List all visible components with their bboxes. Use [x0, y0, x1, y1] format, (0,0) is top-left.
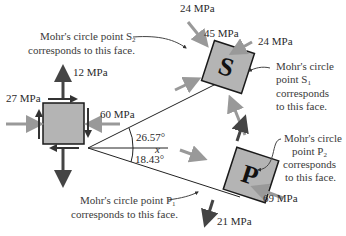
- note-s2-line1: Mohr's circle point S2: [40, 30, 136, 44]
- note-p2-line2: point P2: [292, 145, 327, 159]
- label-12mpa: 12 MPa: [73, 66, 108, 78]
- angle-lines: 26.57° x 18.43°: [88, 76, 240, 197]
- mohr-diagram: 12 MPa 27 MPa 60 MPa 26.57° x 18.43° S 2…: [0, 0, 346, 236]
- note-p1-line2: corresponds to this face.: [71, 208, 178, 220]
- note-p1-line1: Mohr's circle point P1: [80, 194, 176, 208]
- angle-upper: 26.57°: [136, 131, 165, 143]
- angle-lower: 18.43°: [135, 153, 164, 165]
- s-label-24mpa-top: 24 MPa: [180, 2, 215, 14]
- note-s1-line4: to this face.: [276, 100, 327, 112]
- note-s1-line3: corresponds: [276, 87, 329, 99]
- p-label-69mpa: 69 MPa: [263, 192, 298, 204]
- note-p2-line3: corresponds: [283, 158, 336, 170]
- p-label-21mpa: 21 MPa: [217, 215, 252, 227]
- original-element: 12 MPa 27 MPa 60 MPa: [6, 66, 135, 182]
- note-s1-line2: point S1: [276, 73, 311, 87]
- s-label-24mpa-right: 24 MPa: [258, 35, 293, 47]
- label-60mpa: 60 MPa: [100, 108, 135, 120]
- note-p2-line4: to this face.: [285, 171, 336, 183]
- note-p2-line1: Mohr's circle: [284, 132, 342, 144]
- label-27mpa: 27 MPa: [6, 92, 41, 104]
- s-label-45mpa: 45 MPa: [204, 27, 239, 39]
- note-s2-line2: corresponds to this face.: [28, 44, 135, 56]
- note-s1-line1: Mohr's circle: [276, 60, 334, 72]
